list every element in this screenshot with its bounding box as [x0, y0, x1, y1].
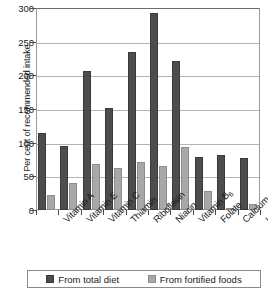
bar-group: [148, 8, 170, 210]
x-tick-label: Niacin: [173, 217, 181, 225]
x-tick-mark: [193, 210, 194, 215]
light-square-swatch: [148, 275, 156, 283]
chart-legend: From total diet From fortified foods: [27, 270, 261, 288]
bar-group: [238, 8, 260, 210]
x-tick-mark: [148, 210, 149, 215]
bar: [172, 61, 180, 210]
x-tick-mark: [36, 210, 37, 215]
bar-group: [126, 8, 148, 210]
x-tick-mark: [238, 210, 239, 215]
bar-group: [58, 8, 80, 210]
x-tick-label: Thiamin: [128, 217, 136, 225]
legend-label-total-diet: From total diet: [58, 274, 119, 285]
x-tick-mark: [58, 210, 59, 215]
x-tick-label: Calcium: [240, 217, 248, 225]
x-tick-label: Iron: [263, 217, 268, 225]
x-tick-label: Vitamin E: [84, 217, 92, 225]
x-tick-mark: [126, 210, 127, 215]
bar: [240, 158, 248, 210]
bars-layer: [36, 8, 260, 210]
bar-group: [81, 8, 103, 210]
bar: [195, 157, 203, 210]
x-tick-label: Riboflavin: [151, 217, 159, 225]
x-tick-label: Vitamin A: [61, 217, 69, 225]
x-tick-label: Folate: [218, 217, 226, 225]
bar: [128, 52, 136, 210]
legend-item-fortified-foods: From fortified foods: [148, 274, 242, 285]
bar-group: [170, 8, 192, 210]
x-tick-mark: [215, 210, 216, 215]
bar: [47, 195, 55, 210]
x-tick-label: Vitamin B6: [196, 217, 204, 225]
bar-group: [103, 8, 125, 210]
legend-label-fortified-foods: From fortified foods: [160, 274, 242, 285]
bar: [150, 13, 158, 210]
bar-chart: Per cent of recommended intake 050100150…: [0, 0, 268, 293]
bar: [60, 146, 68, 210]
bar: [83, 71, 91, 210]
bar-group: [215, 8, 237, 210]
bar-group: [193, 8, 215, 210]
x-tick-mark: [81, 210, 82, 215]
x-tick-mark: [103, 210, 104, 215]
bar-group: [36, 8, 58, 210]
x-tick-label: Vitamin C: [106, 217, 114, 225]
bar: [38, 133, 46, 210]
legend-item-total-diet: From total diet: [46, 274, 119, 285]
dark-square-swatch: [46, 275, 54, 283]
x-tick-mark: [170, 210, 171, 215]
x-tick-mark: [260, 210, 261, 215]
